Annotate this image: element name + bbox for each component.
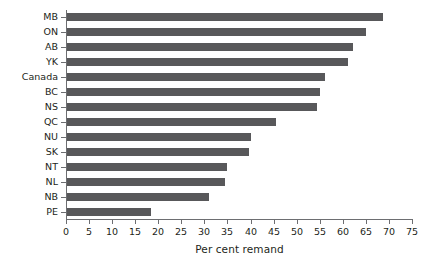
x-axis-line [66,219,413,220]
y-axis-label: QC [0,117,58,127]
bar [67,13,383,21]
y-axis-tick [61,92,66,93]
y-axis-tick [61,62,66,63]
y-axis-label-slot: AB [0,42,58,52]
bar [67,73,325,81]
bar [67,88,320,96]
y-axis-label: AB [0,42,58,52]
y-axis-label-slot: ON [0,27,58,37]
y-axis-label: PE [0,207,58,217]
x-axis-tick [158,220,159,224]
y-axis-tick [61,17,66,18]
y-axis-tick [61,137,66,138]
y-axis-label-slot: YK [0,57,58,67]
x-axis-tick [135,220,136,224]
x-axis-tick [112,220,113,224]
x-axis-tick [227,220,228,224]
x-axis-tick [251,220,252,224]
bar [67,118,276,126]
y-axis-label: NL [0,177,58,187]
x-axis-tick [320,220,321,224]
x-axis-tick [181,220,182,224]
y-axis-label: NT [0,162,58,172]
y-axis-label: ON [0,27,58,37]
y-axis-label: MB [0,12,58,22]
y-axis-label: NB [0,192,58,202]
y-axis-label-slot: BC [0,87,58,97]
x-axis-tick [366,220,367,224]
x-axis-tick [89,220,90,224]
x-axis-tick [389,220,390,224]
bar [67,133,251,141]
x-axis-tick [412,220,413,224]
y-axis-tick [61,47,66,48]
bar [67,58,348,66]
y-axis-label: SK [0,147,58,157]
bar [67,103,317,111]
x-axis-tick [66,220,67,224]
x-axis-tick [204,220,205,224]
y-axis-label: NS [0,102,58,112]
x-axis-tick-label: 75 [397,226,427,237]
bar [67,148,249,156]
y-axis-label: NU [0,132,58,142]
y-axis-label: YK [0,57,58,67]
y-axis-label-slot: PE [0,207,58,217]
y-axis-tick [61,122,66,123]
y-axis-line [66,10,67,220]
y-axis-label-slot: NL [0,177,58,187]
y-axis-tick [61,197,66,198]
bar-chart: MBONABYKCanadaBCNSQCNUSKNTNLNBPE 0510152… [0,0,438,273]
bar [67,178,225,186]
y-axis-tick [61,32,66,33]
y-axis-tick [61,212,66,213]
y-axis-label-slot: Canada [0,72,58,82]
bar [67,28,366,36]
bar [67,193,209,201]
y-axis-tick [61,167,66,168]
y-axis-tick [61,77,66,78]
y-axis-label-slot: MB [0,12,58,22]
y-axis-label-slot: SK [0,147,58,157]
y-axis-label: BC [0,87,58,97]
y-axis-label-slot: NT [0,162,58,172]
y-axis-tick [61,152,66,153]
y-axis-tick [61,107,66,108]
y-axis-label: Canada [0,72,58,82]
bar [67,43,353,51]
x-axis-tick [274,220,275,224]
y-axis-label-slot: NS [0,102,58,112]
bar [67,208,151,216]
y-axis-label-slot: NB [0,192,58,202]
x-axis-title: Per cent remand [66,243,413,256]
x-axis-tick [297,220,298,224]
y-axis-tick [61,182,66,183]
bar [67,163,227,171]
x-axis-tick [343,220,344,224]
y-axis-label-slot: QC [0,117,58,127]
y-axis-label-slot: NU [0,132,58,142]
